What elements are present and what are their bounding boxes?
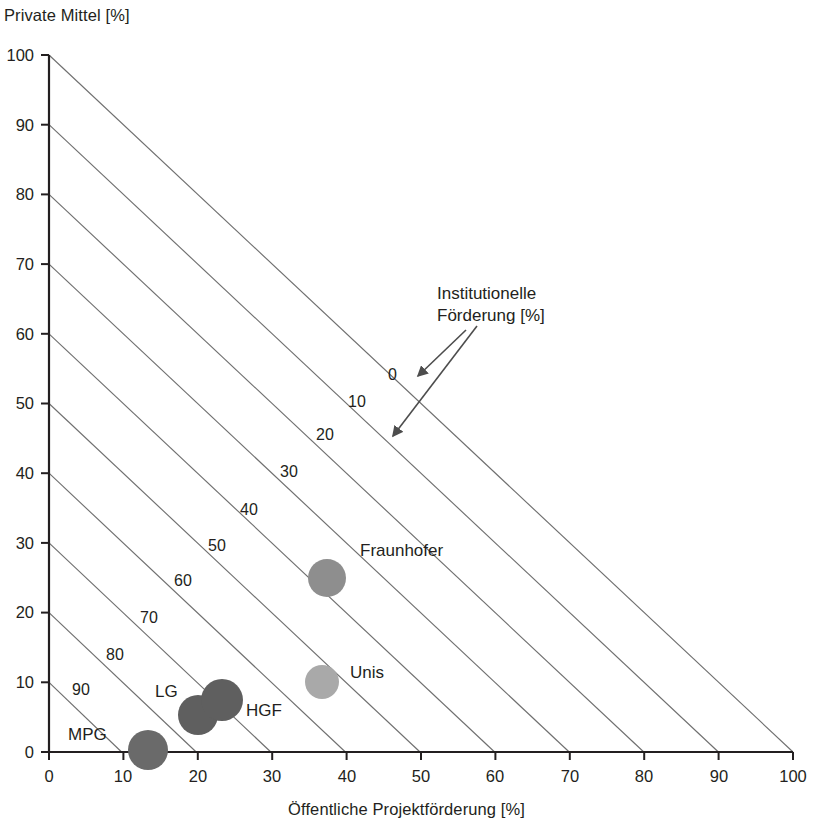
x-tick-label-40: 40 <box>327 768 367 784</box>
annotation-line-1: Institutionelle <box>437 283 545 305</box>
isolines <box>49 55 793 752</box>
bubble-mpg[interactable] <box>128 730 168 770</box>
isoline-label-20: 20 <box>316 427 334 443</box>
bubble-unis[interactable] <box>305 665 339 699</box>
x-tick-label-30: 30 <box>252 768 292 784</box>
annotation-line-2: Förderung [%] <box>437 305 545 327</box>
y-tick-label-100: 100 <box>0 47 34 63</box>
y-tick-label-30: 30 <box>0 535 34 551</box>
y-tick-label-70: 70 <box>0 256 34 272</box>
x-tick-label-20: 20 <box>178 768 218 784</box>
bubble-label-hgf: HGF <box>246 702 282 719</box>
annotation-arrows <box>393 326 477 436</box>
isoline-label-30: 30 <box>280 464 298 480</box>
y-tick-label-80: 80 <box>0 186 34 202</box>
bubble-hgf[interactable] <box>201 679 243 721</box>
x-tick-label-80: 80 <box>624 768 664 784</box>
x-tick-label-90: 90 <box>699 768 739 784</box>
y-tick-label-0: 0 <box>0 744 34 760</box>
isoline-70 <box>49 543 271 752</box>
x-axis-title: Öffentliche Projektförderung [%] <box>0 800 813 819</box>
x-tick-label-60: 60 <box>475 768 515 784</box>
annotation-arrow-to-isoline-20 <box>393 326 477 436</box>
bubble-label-mpg: MPG <box>68 726 107 743</box>
isoline-label-0: 0 <box>388 367 397 383</box>
isoline-label-50: 50 <box>208 538 226 554</box>
plot-canvas <box>0 0 813 834</box>
isoline-10 <box>49 125 718 752</box>
isoline-label-90: 90 <box>72 682 90 698</box>
isoline-label-70: 70 <box>140 610 158 626</box>
bubble-label-unis: Unis <box>350 664 384 681</box>
isoline-label-80: 80 <box>106 647 124 663</box>
x-tick-label-100: 100 <box>773 768 813 784</box>
bubble-label-fraunhofer: Fraunhofer <box>360 542 443 559</box>
x-tick-label-50: 50 <box>401 768 441 784</box>
isoline-label-10: 10 <box>348 394 366 410</box>
y-tick-label-20: 20 <box>0 604 34 620</box>
bubble-label-lg: LG <box>155 683 178 700</box>
y-tick-marks <box>41 55 49 752</box>
y-tick-label-50: 50 <box>0 395 34 411</box>
y-tick-label-90: 90 <box>0 117 34 133</box>
bubble-chart: Private Mittel [%] <box>0 0 813 834</box>
x-tick-label-10: 10 <box>103 768 143 784</box>
x-tick-label-0: 0 <box>29 768 69 784</box>
x-tick-label-70: 70 <box>550 768 590 784</box>
y-tick-label-40: 40 <box>0 465 34 481</box>
y-tick-label-60: 60 <box>0 326 34 342</box>
y-tick-label-10: 10 <box>0 674 34 690</box>
isoline-label-60: 60 <box>174 573 192 589</box>
annotation-callout: Institutionelle Förderung [%] <box>437 283 545 327</box>
annotation-arrow-to-isoline-0 <box>418 330 466 376</box>
isoline-label-40: 40 <box>240 502 258 518</box>
isoline-20 <box>49 194 644 752</box>
bubble-fraunhofer[interactable] <box>308 559 346 597</box>
